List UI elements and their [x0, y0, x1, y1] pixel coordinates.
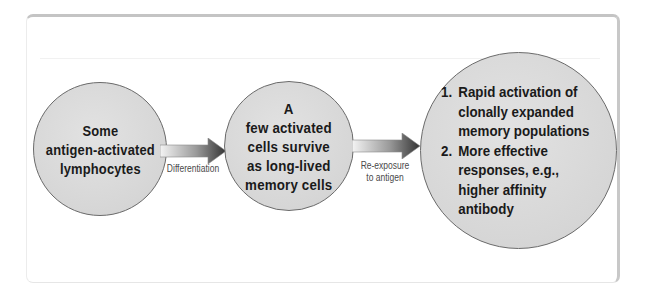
edge-label-re-exposure: Re-exposure to antigen — [355, 160, 415, 184]
node-line: A — [245, 99, 332, 118]
item-line: higher affinity — [459, 180, 560, 200]
node-line: cells survive — [245, 137, 332, 156]
item-line: clonally expanded — [459, 102, 590, 122]
node-activated-text: Some antigen-activated lymphocytes — [45, 121, 154, 178]
item-line: Rapid activation of — [459, 82, 590, 102]
item-number: 1. — [441, 82, 458, 141]
edge-label-line: Differentiation — [163, 163, 223, 175]
item-text: More effective responses, e.g., higher a… — [459, 141, 560, 219]
node-line: as long-lived — [245, 156, 332, 175]
edge-label-line: to antigen — [355, 172, 415, 184]
node-memory-text: A few activated cells survive as long-li… — [245, 99, 332, 194]
item-line: More effective — [459, 141, 560, 161]
right-arrow-icon — [352, 133, 420, 159]
edge-label-line: Re-exposure — [355, 160, 415, 172]
outcomes-list: 1. Rapid activation of clonally expanded… — [441, 82, 589, 219]
item-line: antibody — [459, 199, 560, 219]
node-line: lymphocytes — [45, 159, 154, 178]
node-line: few activated — [245, 118, 332, 137]
item-line: memory populations — [459, 121, 590, 141]
node-line: memory cells — [245, 175, 332, 194]
node-activated-lymphocytes: Some antigen-activated lymphocytes — [33, 82, 167, 216]
arrow-differentiation — [160, 138, 226, 164]
node-line: Some — [45, 121, 154, 140]
edge-label-differentiation: Differentiation — [163, 163, 223, 175]
item-line: responses, e.g., — [459, 160, 560, 180]
node-line: antigen-activated — [45, 140, 154, 159]
right-arrow-icon — [160, 138, 226, 164]
node-outcomes: 1. Rapid activation of clonally expanded… — [420, 52, 617, 249]
outcome-item: 2. More effective responses, e.g., highe… — [441, 141, 589, 219]
item-text: Rapid activation of clonally expanded me… — [459, 82, 590, 141]
outcome-item: 1. Rapid activation of clonally expanded… — [441, 82, 589, 141]
node-memory-cells: A few activated cells survive as long-li… — [224, 81, 354, 211]
arrow-re-exposure — [352, 133, 420, 159]
item-number: 2. — [441, 141, 458, 219]
